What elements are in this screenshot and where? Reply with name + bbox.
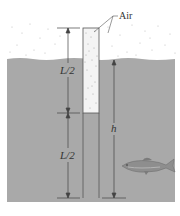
lower-half-label: L/2 bbox=[59, 149, 75, 161]
air-label: Air bbox=[119, 10, 133, 21]
depth-label: h bbox=[111, 122, 117, 134]
upper-half-label: L/2 bbox=[59, 64, 75, 76]
tube-in-water-diagram: Air L/2 L/2 h bbox=[0, 0, 180, 216]
tube-air-column bbox=[83, 28, 99, 113]
